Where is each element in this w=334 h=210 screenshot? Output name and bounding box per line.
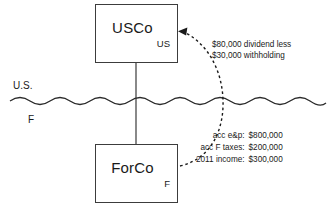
dividend-note: $80,000 dividend less $30,000 withholdin…	[212, 39, 291, 61]
entity-jurisdiction-usco: US	[157, 38, 170, 49]
financials-label-acc-f-taxes: acc F taxes:	[196, 143, 249, 155]
entity-name-usco: USCo	[96, 19, 169, 36]
financials-value-acc-ep: $800,000	[249, 131, 283, 143]
dividend-note-line-2: $30,000 withholding	[212, 50, 291, 61]
financials-label-acc-ep: acc e&p:	[196, 131, 249, 143]
table-row: 2011 income: $300,000	[196, 155, 283, 167]
entity-name-forco: ForCo	[96, 159, 169, 176]
entity-jurisdiction-forco: F	[164, 178, 170, 189]
dividend-note-line-1: $80,000 dividend less	[212, 39, 291, 50]
financials-value-2011-income: $300,000	[249, 155, 283, 167]
entity-box-usco[interactable]: USCo US	[95, 4, 178, 63]
entity-box-forco[interactable]: ForCo F	[95, 144, 178, 203]
table-row: acc F taxes: $200,000	[196, 143, 283, 155]
border-wavy-line	[10, 98, 326, 106]
financials-note: acc e&p: $800,000 acc F taxes: $200,000 …	[196, 131, 283, 166]
financials-label-2011-income: 2011 income:	[196, 155, 249, 167]
border-label-us: U.S.	[13, 80, 32, 91]
diagram-canvas: USCo US ForCo F U.S. F $80,000 dividend …	[0, 0, 334, 210]
dividend-arrowhead-icon	[178, 27, 187, 35]
table-row: acc e&p: $800,000	[196, 131, 283, 143]
financials-table: acc e&p: $800,000 acc F taxes: $200,000 …	[196, 131, 283, 166]
financials-value-acc-f-taxes: $200,000	[249, 143, 283, 155]
border-label-f: F	[28, 114, 34, 125]
